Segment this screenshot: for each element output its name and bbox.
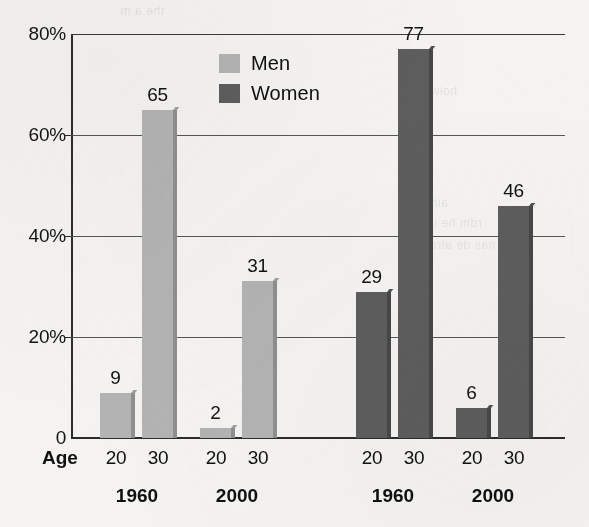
women-swatch-icon [219, 84, 240, 103]
x-group-label-women-2000: 2000 [472, 485, 514, 507]
x-tick-age-20-2000-men: 20 [206, 447, 227, 469]
legend-item-men[interactable]: Men [219, 50, 320, 76]
legend-label-men: Men [251, 52, 290, 75]
x-tick-age-20-1960-women: 20 [362, 447, 383, 469]
x-tick-age-20-1960-men: 20 [106, 447, 127, 469]
x-axis-caption: Age [42, 447, 78, 469]
x-tick-age-30-1960-men: 30 [148, 447, 169, 469]
x-tick-age-30-1960-women: 30 [404, 447, 425, 469]
legend-label-women: Women [251, 82, 320, 105]
x-tick-age-20-2000-women: 20 [462, 447, 483, 469]
x-group-label-men-2000: 2000 [216, 485, 258, 507]
x-group-label-men-1960: 1960 [116, 485, 158, 507]
bar-chart: 80% 60% 40% 20% 0 [0, 0, 589, 527]
men-swatch-icon [219, 54, 240, 73]
legend-item-women[interactable]: Women [219, 80, 320, 106]
x-tick-age-30-2000-men: 30 [248, 447, 269, 469]
chart-legend: Men Women [219, 50, 320, 110]
x-group-label-women-1960: 1960 [372, 485, 414, 507]
x-tick-age-30-2000-women: 30 [504, 447, 525, 469]
